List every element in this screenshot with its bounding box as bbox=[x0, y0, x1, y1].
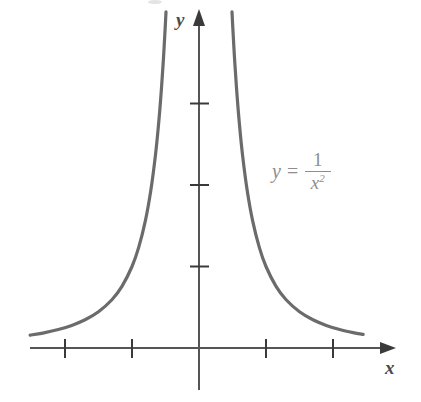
figure-container: y x y = 1 x2 bbox=[0, 0, 421, 402]
fraction-denominator: x2 bbox=[306, 172, 330, 193]
denominator-exponent: 2 bbox=[319, 172, 325, 184]
y-axis-label: y bbox=[176, 10, 184, 29]
curve-left-branch bbox=[30, 12, 166, 335]
x-axis-arrowhead bbox=[380, 342, 396, 354]
fraction-numerator: 1 bbox=[308, 150, 328, 171]
equation-lhs: y bbox=[272, 160, 281, 183]
equation-annotation: y = 1 x2 bbox=[272, 150, 331, 193]
equation-operator: = bbox=[287, 160, 299, 183]
denominator-base: x bbox=[311, 172, 319, 193]
x-axis-label: x bbox=[385, 358, 395, 377]
y-axis-arrowhead bbox=[193, 9, 205, 26]
equation-fraction: 1 x2 bbox=[305, 150, 331, 193]
graph-canvas bbox=[0, 0, 421, 402]
